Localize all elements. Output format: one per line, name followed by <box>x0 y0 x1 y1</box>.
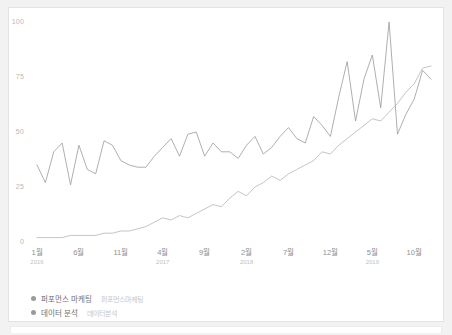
x-tick-month: 7월 <box>283 248 294 257</box>
x-tick-year: 2019 <box>366 258 379 266</box>
screenshot-root: 0255075100 1월20166월11월4월20179월2월20187월12… <box>0 0 452 335</box>
legend-item[interactable]: 데이터 분석데이터분석 <box>31 307 143 318</box>
y-axis-tick-label: 75 <box>8 73 24 80</box>
x-tick-month: 9월 <box>199 248 210 257</box>
y-axis-tick-label: 0 <box>8 238 24 245</box>
x-tick-month: 11월 <box>113 248 128 257</box>
x-axis-tick-label: 11월 <box>113 248 128 257</box>
x-axis-tick-label: 12월 <box>323 248 338 257</box>
legend-item[interactable]: 퍼포먼스 마케팅퍼포먼스마케팅 <box>31 293 143 304</box>
x-tick-year: 2016 <box>30 258 43 266</box>
legend-dot-icon <box>31 296 36 301</box>
y-axis-tick-label: 25 <box>8 183 24 190</box>
chart-canvas <box>9 8 444 276</box>
x-tick-month: 2월 <box>240 248 253 257</box>
x-tick-month: 5월 <box>366 248 379 257</box>
legend-item-sublabel: 퍼포먼스마케팅 <box>101 294 143 304</box>
x-axis-tick-label: 4월2017 <box>156 248 169 266</box>
x-tick-month: 10월 <box>407 248 422 257</box>
x-tick-month: 4월 <box>156 248 169 257</box>
legend-item-sublabel: 데이터분석 <box>87 308 117 318</box>
line-chart: 0255075100 1월20166월11월4월20179월2월20187월12… <box>9 8 444 276</box>
chart-legend: 퍼포먼스 마케팅퍼포먼스마케팅데이터 분석데이터분석 <box>31 293 143 321</box>
series-line <box>37 66 431 238</box>
x-tick-year: 2018 <box>240 258 253 266</box>
x-axis-tick-label: 10월 <box>407 248 422 257</box>
series-paths <box>37 22 431 238</box>
x-axis-tick-label: 6월 <box>73 248 84 257</box>
legend-item-label: 데이터 분석 <box>41 307 78 318</box>
y-axis-tick-label: 100 <box>8 18 24 25</box>
x-axis-tick-label: 5월2019 <box>366 248 379 266</box>
x-tick-month: 6월 <box>73 248 84 257</box>
x-tick-month: 12월 <box>323 248 338 257</box>
x-tick-year: 2017 <box>156 258 169 266</box>
x-axis-tick-label: 1월2016 <box>30 248 43 266</box>
series-line <box>37 22 431 185</box>
legend-item-label: 퍼포먼스 마케팅 <box>41 293 92 304</box>
x-tick-month: 1월 <box>30 248 43 257</box>
chart-card: 0255075100 1월20166월11월4월20179월2월20187월12… <box>8 7 444 322</box>
x-axis-tick-label: 2월2018 <box>240 248 253 266</box>
legend-dot-icon <box>31 310 36 315</box>
x-axis-tick-label: 9월 <box>199 248 210 257</box>
card-stack-edge <box>10 326 442 333</box>
x-axis-tick-label: 7월 <box>283 248 294 257</box>
y-axis-tick-label: 50 <box>8 128 24 135</box>
